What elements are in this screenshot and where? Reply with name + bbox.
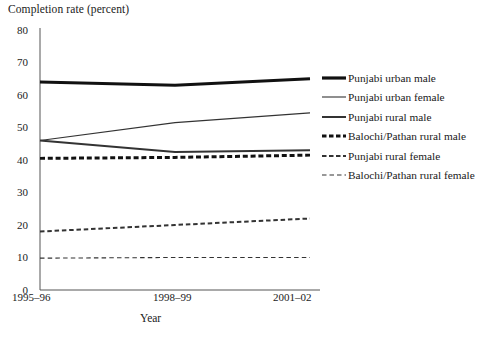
chart-legend: Punjabi urban male Punjabi urban female … <box>322 68 490 185</box>
legend-item-balochi-pathan-rural-male: Balochi/Pathan rural male <box>322 127 490 147</box>
legend-swatch-line <box>322 169 346 181</box>
legend-item-punjabi-urban-male: Punjabi urban male <box>322 68 490 88</box>
series-line-4 <box>40 219 310 232</box>
legend-item-punjabi-rural-male: Punjabi rural male <box>322 107 490 127</box>
legend-item-balochi-pathan-rural-female: Balochi/Pathan rural female <box>322 166 490 186</box>
legend-label: Punjabi urban female <box>348 91 445 103</box>
chart-figure: Completion rate (percent) 80 70 60 50 40… <box>0 0 492 337</box>
data-series-group <box>40 79 310 258</box>
series-line-3 <box>40 155 310 158</box>
legend-swatch-line <box>322 111 346 123</box>
legend-label: Punjabi rural female <box>348 150 440 162</box>
series-line-1 <box>40 113 310 141</box>
legend-label: Balochi/Pathan rural female <box>348 169 475 181</box>
series-line-0 <box>40 79 310 86</box>
legend-swatch-line <box>322 130 346 142</box>
legend-swatch-line <box>322 72 346 84</box>
series-line-5 <box>40 258 310 259</box>
series-line-2 <box>40 141 310 152</box>
legend-label: Balochi/Pathan rural male <box>348 130 466 142</box>
legend-label: Punjabi rural male <box>348 111 431 123</box>
legend-label: Punjabi urban male <box>348 72 436 84</box>
legend-swatch-line <box>322 91 346 103</box>
legend-item-punjabi-urban-female: Punjabi urban female <box>322 88 490 108</box>
legend-item-punjabi-rural-female: Punjabi rural female <box>322 146 490 166</box>
legend-swatch-line <box>322 150 346 162</box>
